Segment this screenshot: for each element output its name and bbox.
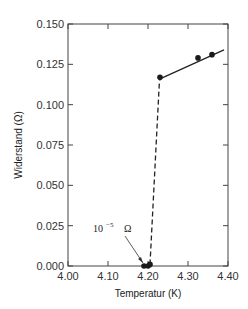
plot-frame bbox=[68, 24, 228, 266]
annotation-exponent: −5 bbox=[106, 221, 114, 229]
data-point-marker bbox=[157, 74, 163, 80]
dashed-transition-line bbox=[150, 79, 160, 265]
resistance-temperature-chart: 0.0000.0250.0500.0750.1000.1250.150 4.00… bbox=[0, 0, 248, 309]
x-tick-label: 4.30 bbox=[177, 270, 198, 282]
x-tick-label: 4.40 bbox=[217, 270, 238, 282]
data-point-marker bbox=[209, 52, 215, 58]
x-tick-label: 4.00 bbox=[57, 270, 78, 282]
y-tick-label: 0.050 bbox=[36, 179, 64, 191]
dashed-line bbox=[150, 79, 160, 265]
annotation-10e-5-ohm: 10 −5 Ω bbox=[93, 221, 143, 263]
data-markers bbox=[141, 52, 215, 269]
annotation-base: 10 bbox=[93, 223, 103, 234]
y-tick-label: 0.125 bbox=[36, 58, 64, 70]
x-axis-label: Temperatur (K) bbox=[115, 288, 182, 299]
arrowhead-icon bbox=[138, 257, 143, 263]
annotation-unit: Ω bbox=[124, 223, 131, 234]
y-tick-label: 0.100 bbox=[36, 99, 64, 111]
y-axis-label: Widerstand (Ω) bbox=[13, 111, 24, 179]
x-axis: 4.004.104.204.304.40 bbox=[57, 24, 238, 282]
y-tick-label: 0.150 bbox=[36, 18, 64, 30]
data-point-marker bbox=[195, 55, 201, 61]
data-point-marker bbox=[147, 262, 153, 268]
y-tick-label: 0.025 bbox=[36, 220, 64, 232]
x-tick-label: 4.10 bbox=[97, 270, 118, 282]
y-tick-label: 0.075 bbox=[36, 139, 64, 151]
x-tick-label: 4.20 bbox=[137, 270, 158, 282]
